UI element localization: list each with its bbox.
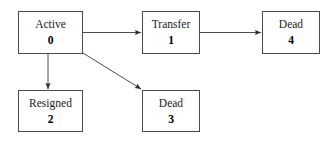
- node-dead-4-label: Dead: [279, 18, 303, 31]
- node-resigned-id: 2: [48, 113, 54, 126]
- node-transfer[interactable]: Transfer 1: [142, 11, 200, 54]
- state-transition-diagram: Active 0 Transfer 1 Resigned 2 Dead 3 De…: [0, 0, 336, 142]
- node-transfer-label: Transfer: [152, 18, 191, 31]
- node-transfer-id: 1: [168, 34, 174, 47]
- node-active-id: 0: [48, 34, 54, 47]
- node-resigned[interactable]: Resigned 2: [18, 90, 83, 132]
- node-dead-4-id: 4: [288, 34, 294, 47]
- node-dead-4[interactable]: Dead 4: [262, 11, 320, 54]
- node-dead-3-label: Dead: [159, 97, 183, 110]
- node-active[interactable]: Active 0: [18, 11, 83, 54]
- node-active-label: Active: [35, 18, 66, 31]
- node-dead-3-id: 3: [168, 113, 174, 126]
- edge-active-to-dead3: [83, 53, 141, 89]
- node-resigned-label: Resigned: [29, 97, 72, 110]
- node-dead-3[interactable]: Dead 3: [142, 90, 200, 132]
